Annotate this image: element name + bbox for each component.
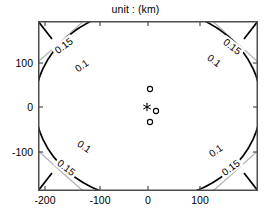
xtick-label--100: -100 (89, 194, 110, 206)
ytick-label-100: 100 (0, 57, 33, 69)
plot-axes: 0.15 0.15 0.15 0.15 (38, 21, 258, 191)
ytick-label--100: -100 (0, 146, 33, 158)
contour-plot-canvas: 0.15 0.15 0.15 0.15 (38, 21, 258, 191)
contour-figure: unit : (km) (0, 0, 271, 220)
xtick-label--200: -200 (34, 194, 55, 206)
page-title: unit : (km) (0, 3, 271, 15)
xtick-label-0: 0 (145, 194, 151, 206)
ytick-label-0: 0 (0, 101, 33, 113)
xtick-label-100: 100 (191, 194, 209, 206)
